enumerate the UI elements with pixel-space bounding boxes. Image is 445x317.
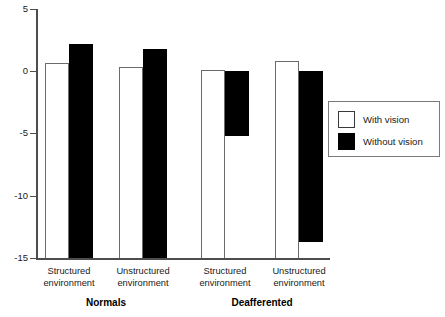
category-label-line2: environment bbox=[254, 278, 344, 290]
x-axis-line bbox=[36, 258, 330, 260]
category-label-deafferented-unstructured: Unstructured environment bbox=[254, 266, 344, 289]
legend-item-without-vision: Without vision bbox=[338, 132, 423, 150]
legend-item-with-vision: With vision bbox=[338, 110, 409, 128]
y-tick-label: -15 bbox=[2, 253, 28, 263]
bar-without-vision-deafferented-structured bbox=[225, 71, 249, 136]
y-axis-line bbox=[36, 9, 38, 260]
y-tick-label: 5 bbox=[2, 4, 28, 14]
y-tick-mark bbox=[30, 196, 38, 197]
chart-legend: With vision Without vision bbox=[328, 101, 440, 157]
bar-chart: 5 0 -5 -10 -15 Structured environment Un… bbox=[0, 0, 445, 317]
category-label-line1: Unstructured bbox=[98, 266, 188, 278]
y-tick-mark bbox=[30, 133, 38, 134]
bar-with-vision-normals-structured bbox=[45, 63, 69, 258]
category-label-line2: environment bbox=[98, 278, 188, 290]
bar-with-vision-deafferented-structured bbox=[201, 70, 225, 258]
category-label-normals-unstructured: Unstructured environment bbox=[98, 266, 188, 289]
bar-without-vision-normals-unstructured bbox=[143, 49, 167, 258]
category-label-line1: Unstructured bbox=[254, 266, 344, 278]
legend-swatch-open-icon bbox=[338, 111, 355, 128]
legend-label: With vision bbox=[363, 114, 409, 125]
y-tick-label: 0 bbox=[2, 66, 28, 76]
legend-label: Without vision bbox=[363, 136, 423, 147]
bar-with-vision-deafferented-unstructured bbox=[275, 61, 299, 258]
y-tick-label: -5 bbox=[2, 128, 28, 138]
y-tick-mark bbox=[30, 9, 38, 10]
group-label-normals: Normals bbox=[26, 297, 186, 308]
bar-with-vision-normals-unstructured bbox=[119, 67, 143, 258]
y-tick-mark bbox=[30, 258, 38, 259]
bar-without-vision-deafferented-unstructured bbox=[299, 71, 323, 242]
group-label-deafferented: Deafferented bbox=[182, 297, 342, 308]
legend-swatch-filled-icon bbox=[338, 133, 355, 150]
y-tick-label: -10 bbox=[2, 191, 28, 201]
bar-without-vision-normals-structured bbox=[69, 44, 93, 258]
y-tick-mark bbox=[30, 71, 38, 72]
